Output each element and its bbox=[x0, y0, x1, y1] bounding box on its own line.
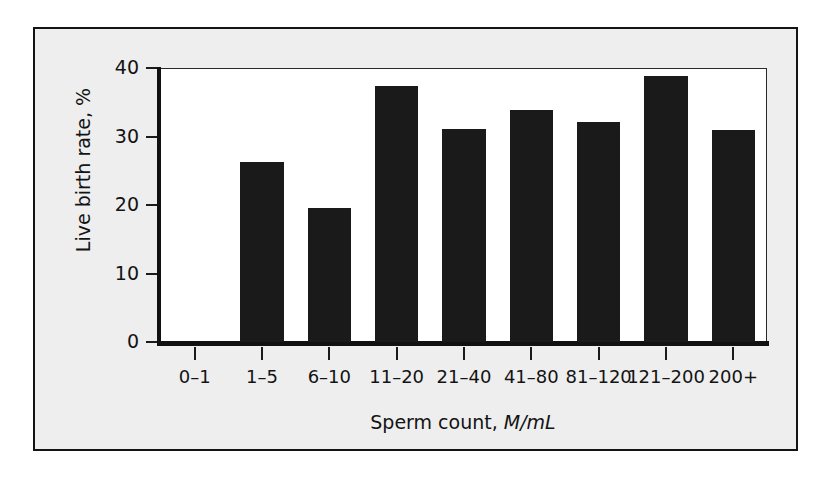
x-axis-tick bbox=[732, 347, 734, 360]
y-axis-tick-label: 40 bbox=[99, 58, 139, 77]
x-axis-tick-label: 200+ bbox=[709, 368, 758, 386]
y-axis-tick bbox=[146, 341, 157, 343]
x-axis-tick-label: 0–1 bbox=[179, 368, 211, 386]
bar bbox=[375, 86, 418, 342]
y-axis-tick-label: 0 bbox=[99, 332, 139, 351]
x-axis-tick bbox=[665, 347, 667, 360]
y-axis-tick-label: 30 bbox=[99, 127, 139, 146]
x-axis-title-main: Sperm count, bbox=[370, 411, 497, 433]
bar bbox=[644, 76, 687, 342]
y-axis-tick bbox=[146, 204, 157, 206]
x-axis-tick-label: 6–10 bbox=[308, 368, 351, 386]
x-axis-tick-label: 81–120 bbox=[566, 368, 632, 386]
y-axis-tick-label: 20 bbox=[99, 195, 139, 214]
y-axis-tick-label: 10 bbox=[99, 264, 139, 283]
bar bbox=[510, 110, 553, 342]
x-axis-tick-label: 121–200 bbox=[627, 368, 705, 386]
bar bbox=[712, 130, 755, 342]
y-axis-tick bbox=[146, 136, 157, 138]
y-axis-tick bbox=[146, 67, 157, 69]
x-axis-tick bbox=[463, 347, 465, 360]
x-axis-title: Sperm count, M/mL bbox=[159, 411, 767, 433]
x-axis-tick bbox=[530, 347, 532, 360]
y-axis-tick bbox=[146, 273, 157, 275]
x-axis-tick-label: 41–80 bbox=[504, 368, 559, 386]
bar bbox=[240, 162, 283, 342]
bar bbox=[308, 208, 351, 342]
y-axis-title: Live birth rate, % bbox=[72, 60, 94, 280]
bar bbox=[577, 122, 620, 342]
x-axis-title-unit: M/mL bbox=[504, 411, 556, 433]
x-axis-tick bbox=[396, 347, 398, 360]
x-axis-tick bbox=[194, 347, 196, 360]
x-axis-tick bbox=[261, 347, 263, 360]
bars-layer bbox=[161, 68, 767, 342]
x-axis-tick bbox=[598, 347, 600, 360]
x-axis-tick-label: 21–40 bbox=[437, 368, 492, 386]
bar bbox=[442, 129, 485, 342]
x-axis-tick-label: 1–5 bbox=[246, 368, 278, 386]
figure-frame: 010203040 0–11–56–1011–2021–4041–8081–12… bbox=[33, 27, 798, 451]
x-axis-tick-label: 11–20 bbox=[369, 368, 424, 386]
x-axis-tick bbox=[328, 347, 330, 360]
